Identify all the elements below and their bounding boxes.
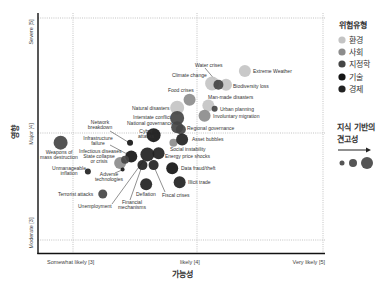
legend-label-environment: 환경 bbox=[349, 35, 363, 45]
leader-line-fiscal-crises bbox=[155, 169, 165, 192]
risk-landscape-chart: Severe [5] Major [4] Moderate [3] 영향 Som… bbox=[0, 0, 390, 292]
bubble-extreme-weather bbox=[239, 65, 251, 77]
legend-label-geopolitics: 지정학 bbox=[349, 59, 371, 69]
label-water-crises: Water crises bbox=[195, 62, 223, 68]
label-illicit-trade: Illicit trade bbox=[188, 179, 211, 185]
label-unemployment: Unemployment bbox=[78, 203, 112, 209]
bubble-urban-planning bbox=[212, 106, 218, 112]
x-tick-likely: likely [4] bbox=[180, 259, 200, 265]
label-terrorist-attacks: Terrorist attacks bbox=[58, 191, 94, 197]
label-fiscal-crises: Fiscal crises bbox=[162, 192, 190, 198]
label-urban-planning: Urban planning bbox=[220, 106, 254, 112]
label-food-crises: Food crises bbox=[168, 87, 194, 93]
label-deflation: Deflation bbox=[136, 191, 156, 197]
label-network-breakdown: breakdown bbox=[88, 124, 113, 130]
y-axis-title: 영향 bbox=[10, 124, 20, 139]
size-legend-dot-medium bbox=[349, 159, 357, 167]
bubble-energy-price-shocks bbox=[153, 147, 165, 159]
bubble-adverse-technologies bbox=[121, 167, 125, 171]
point-labels: Extreme WeatherClimate changeBiodiversit… bbox=[40, 62, 292, 210]
label-extreme-weather: Extreme Weather bbox=[253, 68, 292, 74]
y-tick-major: Major [4] bbox=[28, 123, 34, 145]
label-data-fraud-theft: Data fraud/theft bbox=[181, 165, 216, 171]
bubble-fiscal-crises bbox=[149, 160, 159, 170]
y-tick-moderate: Moderate [3] bbox=[28, 217, 34, 248]
label-energy-price-shocks: Energy price shocks bbox=[165, 153, 211, 159]
legend-item-environment: 환경 bbox=[338, 35, 363, 45]
label-adverse-technologies: technologies bbox=[95, 176, 124, 182]
legend-item-society: 사회 bbox=[338, 48, 363, 57]
size-legend: 지식 기반의 견고성 bbox=[337, 122, 375, 169]
label-social-instability: Social instability bbox=[170, 146, 206, 152]
bubble-data-fraud-theft bbox=[166, 162, 178, 174]
category-legend: 위험유형 환경 사회 지정학 기술 경제 bbox=[338, 20, 371, 94]
size-legend-dot-small bbox=[340, 161, 345, 166]
legend-title: 위험유형 bbox=[339, 20, 367, 30]
bubble-water-crises bbox=[213, 80, 223, 90]
label-national-governance: National governance bbox=[127, 120, 173, 126]
label-unmanageable-inflation: inflation bbox=[60, 170, 77, 176]
bubble-regional-governance bbox=[176, 125, 186, 135]
bubble-asset-bubbles bbox=[176, 133, 188, 145]
arrow-right-icon bbox=[366, 148, 371, 153]
bubble-financial-mechanisms bbox=[137, 160, 147, 170]
bubble-food-crises bbox=[184, 94, 196, 106]
label-regional-governance: Regional governance bbox=[187, 125, 234, 131]
legend-label-technology: 기술 bbox=[349, 72, 363, 82]
size-legend-title-line2: 견고성 bbox=[337, 134, 358, 144]
legend-dot-economy bbox=[338, 85, 345, 92]
legend-item-geopolitics: 지정학 bbox=[338, 59, 371, 69]
label-asset-bubbles: Asset bubbles bbox=[192, 136, 224, 142]
bubble-illicit-trade bbox=[174, 176, 186, 188]
bubble-network-breakdown bbox=[127, 140, 133, 146]
bubble-state-collapse-or-crisis bbox=[121, 156, 129, 164]
size-legend-title-line1: 지식 기반의 bbox=[337, 122, 375, 132]
label-climate-change: Climate change bbox=[172, 72, 207, 78]
legend-dot-technology bbox=[338, 73, 345, 80]
label-natural-disasters: Natural disasters bbox=[132, 105, 170, 111]
label-financial-mechanisms: mechanisms bbox=[118, 204, 147, 210]
legend-dot-environment bbox=[338, 36, 345, 43]
bubble-involuntary-migration bbox=[199, 110, 211, 122]
y-tick-severe: Severe [5] bbox=[28, 19, 34, 45]
bubble-weapons-of-mass-destruction bbox=[54, 136, 68, 150]
label-weapons-of-mass-destruction: mass destruction bbox=[40, 154, 78, 160]
size-legend-dot-large bbox=[361, 157, 373, 169]
x-tick-somewhat-likely: Somewhat likely [3] bbox=[47, 259, 95, 265]
label-state-collapse-or-crisis: or crisis bbox=[90, 158, 108, 164]
bubble-deflation bbox=[140, 178, 152, 190]
legend-dot-society bbox=[338, 48, 345, 55]
legend-dot-geopolitics bbox=[338, 60, 345, 67]
legend-label-economy: 경제 bbox=[349, 84, 363, 94]
label-infrastructure-failure: failure bbox=[91, 140, 105, 146]
label-man-made-disasters: Man-made disasters bbox=[208, 94, 254, 100]
label-involuntary-migration: Involuntary migration bbox=[213, 113, 260, 119]
legend-label-society: 사회 bbox=[349, 48, 363, 57]
bubble-unemployment bbox=[140, 147, 154, 161]
bubble-terrorist-attacks bbox=[98, 189, 107, 198]
legend-item-economy: 경제 bbox=[338, 84, 363, 94]
label-biodiversity-loss: Biodiversity loss bbox=[233, 83, 269, 89]
x-tick-very-likely: Very likely [5] bbox=[293, 259, 326, 265]
x-axis-title: 가능성 bbox=[172, 269, 193, 279]
label-cyber-attacks: attacks bbox=[138, 133, 154, 139]
legend-item-technology: 기술 bbox=[338, 72, 363, 82]
